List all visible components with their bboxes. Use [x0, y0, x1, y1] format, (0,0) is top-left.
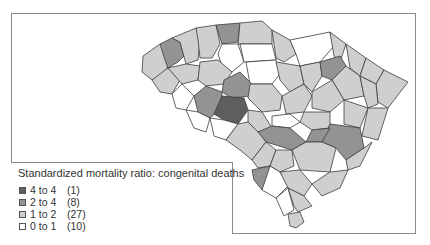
- county[interactable]: [300, 112, 330, 130]
- county[interactable]: [288, 212, 304, 228]
- county[interactable]: [292, 142, 336, 172]
- legend-item: 0 to 1 (10): [19, 220, 97, 232]
- legend-item: 4 to 4 (1): [19, 184, 97, 196]
- county[interactable]: [282, 84, 312, 114]
- legend-item: 2 to 4 (8): [19, 196, 97, 208]
- county[interactable]: [312, 170, 348, 196]
- county[interactable]: [272, 114, 300, 128]
- county[interactable]: [238, 21, 272, 44]
- county[interactable]: [248, 84, 282, 112]
- swatch-dark: [19, 199, 26, 206]
- county[interactable]: [196, 25, 220, 58]
- swatch-white: [19, 223, 26, 230]
- swatch-light: [19, 211, 26, 218]
- county[interactable]: [376, 70, 408, 108]
- county[interactable]: [240, 44, 276, 62]
- legend-item: 1 to 2 (27): [19, 208, 97, 220]
- legend-title: Standardized mortality ratio: congenital…: [18, 167, 244, 179]
- map-legend: Standardized mortality ratio: congenital…: [11, 162, 233, 234]
- county[interactable]: [246, 60, 280, 84]
- swatch-darkest: [19, 187, 26, 194]
